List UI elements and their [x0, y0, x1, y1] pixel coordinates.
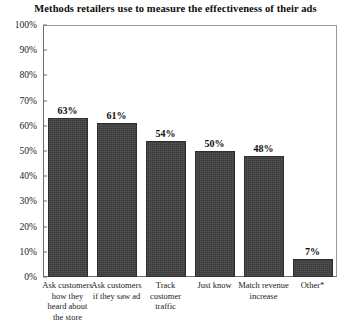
bar-value-label: 54%: [146, 128, 186, 139]
bar[interactable]: [195, 151, 235, 277]
y-axis: 0%10%20%30%40%50%60%70%80%90%100%: [0, 25, 43, 277]
y-axis-tick-mark: [43, 151, 47, 152]
bar-value-label: 50%: [195, 138, 235, 149]
y-axis-tick-label: 60%: [20, 121, 37, 131]
bar-value-label: 61%: [97, 110, 137, 121]
y-axis-tick-mark: [43, 277, 47, 278]
x-axis-labels: Ask customers how they heard about the s…: [43, 280, 337, 326]
y-axis-tick-label: 90%: [20, 45, 37, 55]
bar[interactable]: [48, 118, 88, 277]
y-axis-tick-mark: [43, 100, 47, 101]
bar[interactable]: [146, 141, 186, 277]
x-axis-category-label: Track customer traffic: [140, 280, 192, 312]
y-axis-tick-label: 50%: [20, 146, 37, 156]
x-axis-category-label: Match revenue increase: [238, 280, 290, 301]
y-axis-tick-mark: [43, 201, 47, 202]
y-axis-tick-label: 20%: [20, 222, 37, 232]
y-axis-tick-label: 0%: [24, 272, 37, 282]
y-axis-tick-label: 100%: [15, 20, 37, 30]
y-axis-tick-mark: [43, 176, 47, 177]
bar-group[interactable]: 63%: [48, 25, 88, 277]
x-axis-category-label: Ask customers if they saw ad: [91, 280, 143, 301]
bar-group[interactable]: 61%: [97, 25, 137, 277]
chart-title: Methods retailers use to measure the eff…: [0, 3, 351, 14]
y-axis-tick-label: 40%: [20, 171, 37, 181]
bar[interactable]: [97, 123, 137, 277]
y-axis-tick-label: 30%: [20, 196, 37, 206]
y-axis-tick-mark: [43, 125, 47, 126]
y-axis-tick-label: 10%: [20, 247, 37, 257]
y-axis-tick-mark: [43, 75, 47, 76]
bar[interactable]: [244, 156, 284, 277]
y-axis-tick-label: 80%: [20, 70, 37, 80]
bar-value-label: 7%: [293, 246, 333, 257]
bar-chart: Methods retailers use to measure the eff…: [0, 0, 351, 326]
bar-value-label: 48%: [244, 143, 284, 154]
x-axis-category-label: Ask customers how they heard about the s…: [42, 280, 94, 322]
bar-group[interactable]: 54%: [146, 25, 186, 277]
bars-layer: 63%61%54%50%48%7%: [43, 25, 337, 277]
y-axis-tick-mark: [43, 25, 47, 26]
bar-value-label: 63%: [48, 105, 88, 116]
x-axis-category-label: Just know: [189, 280, 241, 291]
y-axis-tick-mark: [43, 226, 47, 227]
y-axis-tick-label: 70%: [20, 96, 37, 106]
bar-group[interactable]: 48%: [244, 25, 284, 277]
bar[interactable]: [293, 259, 333, 277]
y-axis-tick-mark: [43, 251, 47, 252]
x-axis-category-label: Other*: [287, 280, 339, 291]
y-axis-tick-mark: [43, 50, 47, 51]
bar-group[interactable]: 7%: [293, 25, 333, 277]
bar-group[interactable]: 50%: [195, 25, 235, 277]
